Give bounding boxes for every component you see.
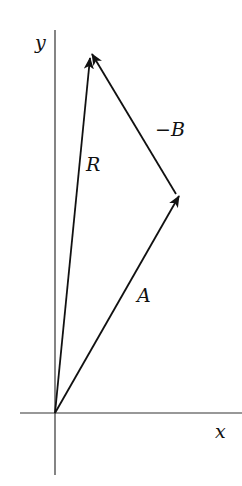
y-axis-label: y (34, 31, 46, 53)
vector-r-label: R (85, 153, 100, 175)
vector-minus-b-label: −B (155, 118, 185, 140)
vector-diagram: y x R −B A (0, 0, 242, 486)
x-axis-label: x (215, 420, 226, 442)
vector-a-label: A (135, 284, 151, 306)
